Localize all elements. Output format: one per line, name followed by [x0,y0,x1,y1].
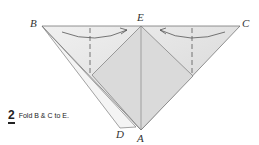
step-number: 2 [8,109,15,124]
label-a: A [136,132,144,144]
label-e: E [136,11,144,23]
label-d: D [115,128,124,140]
label-b: B [30,17,37,29]
step-instruction: Fold B & C to E. [19,112,69,119]
step-caption: 2 Fold B & C to E. [8,109,69,124]
label-c: C [242,17,250,29]
